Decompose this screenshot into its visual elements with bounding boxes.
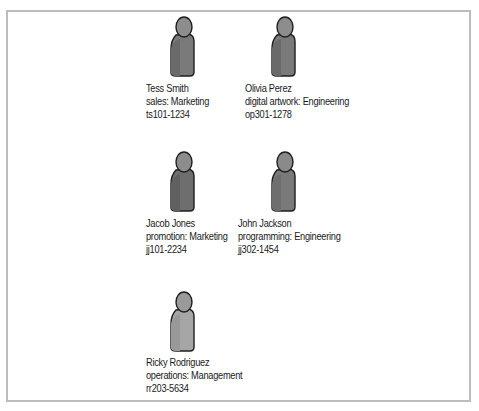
person-icon xyxy=(168,290,196,352)
person-role: programming: Engineering xyxy=(238,230,341,243)
person-name: Ricky Rodriguez xyxy=(146,356,242,369)
person-name: Olivia Perez xyxy=(245,82,349,95)
person-name: Jacob Jones xyxy=(146,217,228,230)
person-icon xyxy=(168,150,196,212)
person-id: jj302-1454 xyxy=(238,243,341,256)
person-id: op301-1278 xyxy=(245,108,349,121)
person-name: John Jackson xyxy=(238,217,341,230)
diagram-frame xyxy=(6,10,471,402)
person-role: sales: Marketing xyxy=(146,95,209,108)
person-role: promotion: Marketing xyxy=(146,230,228,243)
person-icon xyxy=(168,15,196,77)
person-id: jj101-2234 xyxy=(146,243,228,256)
person-name: Tess Smith xyxy=(146,82,209,95)
person-role: digital artwork: Engineering xyxy=(245,95,349,108)
person-caption: Jacob Jones promotion: Marketing jj101-2… xyxy=(146,217,228,256)
person-caption: John Jackson programming: Engineering jj… xyxy=(238,217,341,256)
person-caption: Olivia Perez digital artwork: Engineerin… xyxy=(245,82,349,121)
person-role: operations: Management xyxy=(146,369,242,382)
person-icon xyxy=(269,150,297,212)
person-id: ts101-1234 xyxy=(146,108,209,121)
person-caption: Tess Smith sales: Marketing ts101-1234 xyxy=(146,82,209,121)
person-icon xyxy=(269,15,297,77)
person-caption: Ricky Rodriguez operations: Management r… xyxy=(146,356,242,395)
person-id: rr203-5634 xyxy=(146,382,242,395)
